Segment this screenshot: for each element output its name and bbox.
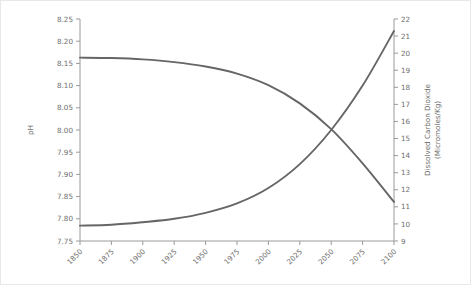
x-axis-tick-label: 2025 <box>285 247 304 266</box>
y-axis-left-tick-label: 8.10 <box>57 81 73 90</box>
y-axis-right-title-line1: Dissolved Carbon Dioxide <box>423 83 432 176</box>
y-axis-right-tick-label: 9 <box>401 237 406 246</box>
y-axis-left-tick-label: 8.00 <box>57 126 73 135</box>
chart-figure: 7.757.807.857.907.958.008.058.108.158.20… <box>0 0 471 285</box>
x-axis-tick-label: 2000 <box>254 247 274 267</box>
y-axis-left-tick-label: 7.85 <box>57 192 73 201</box>
y-axis-left-tick-label: 8.20 <box>57 37 73 46</box>
y-axis-left-tick-label: 7.80 <box>57 214 73 223</box>
y-axis-right-tick-label: 19 <box>401 66 411 75</box>
y-axis-right-tick-label: 21 <box>401 32 410 41</box>
y-axis-right-tick-label: 15 <box>401 134 410 143</box>
y-axis-right-tick-label: 18 <box>401 83 411 92</box>
y-axis-right-title-line2: (Micromoles/Kg) <box>433 101 442 159</box>
chart-canvas: 7.757.807.857.907.958.008.058.108.158.20… <box>1 1 471 285</box>
y-axis-right-tick-label: 16 <box>401 117 411 126</box>
y-axis-right-tick-label: 13 <box>401 168 410 177</box>
x-axis-tick-label: 1875 <box>97 247 116 266</box>
x-axis-tick-label: 1950 <box>191 247 211 267</box>
y-axis-left-tick-label: 7.90 <box>57 170 73 179</box>
x-axis-tick-label: 2050 <box>316 247 336 267</box>
x-axis-tick-label: 2100 <box>379 247 399 267</box>
y-axis-left-tick-label: 7.75 <box>57 237 73 246</box>
y-axis-right-tick-label: 10 <box>401 220 411 229</box>
y-axis-right-tick-label: 14 <box>401 151 411 160</box>
y-axis-right-tick-label: 17 <box>401 100 410 109</box>
y-axis-left-tick-label: 8.15 <box>57 59 73 68</box>
y-axis-right-tick-label: 20 <box>401 49 411 58</box>
y-axis-left-tick-label: 8.25 <box>57 15 73 24</box>
x-axis-tick-label: 1900 <box>128 247 148 267</box>
y-axis-right-tick-label: 22 <box>401 15 410 24</box>
series-line-dissolved-carbon-dioxide <box>80 31 394 226</box>
y-axis-left-tick-label: 8.05 <box>57 103 73 112</box>
series-line-ph <box>80 58 394 202</box>
x-axis-tick-label: 2075 <box>348 247 367 266</box>
x-axis-tick-label: 1925 <box>159 247 178 266</box>
y-axis-left-tick-label: 7.95 <box>57 148 73 157</box>
x-axis-tick-label: 1975 <box>222 247 241 266</box>
y-axis-right-tick-label: 11 <box>401 202 410 211</box>
y-axis-left-title: pH <box>26 125 35 135</box>
y-axis-right-tick-label: 12 <box>401 185 410 194</box>
x-axis-tick-label: 1850 <box>65 247 85 267</box>
